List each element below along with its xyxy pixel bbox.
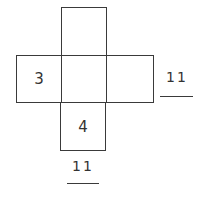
bottom-answer: 11: [66, 158, 100, 174]
face-center: [61, 55, 107, 103]
face-bottom: 4: [60, 102, 106, 151]
face-top: [61, 7, 107, 56]
face-right: [106, 55, 154, 103]
bottom-answer-blank-line: [67, 183, 99, 184]
right-answer-blank-line: [160, 96, 193, 97]
right-answer: 11: [160, 69, 194, 85]
face-bottom-value: 4: [78, 118, 88, 136]
face-left-value: 3: [34, 70, 44, 88]
face-left: 3: [16, 55, 62, 103]
